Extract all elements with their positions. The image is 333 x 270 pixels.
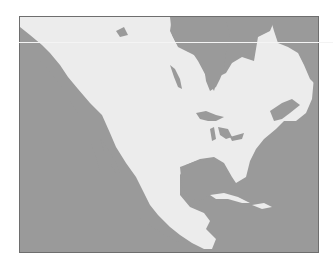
north-america-map <box>20 17 318 252</box>
map-frame <box>19 16 319 253</box>
horizontal-scan-line <box>19 42 333 43</box>
